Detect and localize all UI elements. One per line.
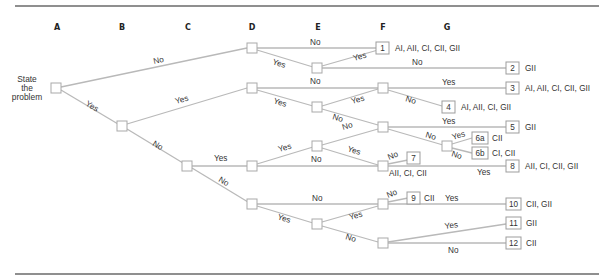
node-d2 <box>247 83 257 93</box>
svg-text:CII: CII <box>526 239 536 248</box>
svg-text:No: No <box>311 155 322 164</box>
leaf-10: 10 CII, GII <box>506 198 552 210</box>
svg-text:No: No <box>312 194 323 203</box>
svg-text:No: No <box>310 77 321 86</box>
leaf-12: 12 CII <box>506 237 536 249</box>
svg-text:No: No <box>344 232 357 244</box>
node-e4 <box>312 219 322 229</box>
column-header-c: C <box>185 23 191 32</box>
leaf-8: 8 AII, CI, CII, GII <box>506 160 578 172</box>
svg-text:No: No <box>310 38 321 47</box>
svg-text:CII: CII <box>492 134 502 143</box>
svg-text:Yes: Yes <box>442 78 455 87</box>
svg-text:Yes: Yes <box>442 117 455 126</box>
edge-labels: No Yes Yes No No Yes Yes No No Yes Yes N… <box>84 38 490 255</box>
svg-text:Yes: Yes <box>445 194 458 203</box>
node-f3 <box>378 122 388 132</box>
svg-text:1: 1 <box>380 44 385 53</box>
svg-text:GII: GII <box>525 64 536 73</box>
node-d3 <box>247 161 257 171</box>
node-g <box>442 141 452 151</box>
svg-text:Yes: Yes <box>276 212 291 225</box>
svg-text:6b: 6b <box>475 149 485 158</box>
svg-text:11: 11 <box>509 219 518 228</box>
node-e3 <box>312 141 322 151</box>
svg-text:9: 9 <box>411 194 416 203</box>
node-c <box>182 161 192 171</box>
decision-nodes <box>51 43 452 248</box>
node-e2 <box>312 102 322 112</box>
leaf-1: 1 AI, AII, CI, CII, GII <box>376 42 460 54</box>
column-header-a: A <box>54 23 61 32</box>
node-a <box>51 83 61 93</box>
svg-text:Yes: Yes <box>271 57 286 70</box>
svg-text:Yes: Yes <box>214 154 227 163</box>
svg-text:3: 3 <box>510 84 515 93</box>
leaf-4: 4 AI, AII, CI, GII <box>442 101 511 113</box>
leaves: 1 AI, AII, CI, CII, GII 2 GII 3 AI, AII,… <box>376 42 590 249</box>
svg-text:CII, GII: CII, GII <box>526 200 552 209</box>
column-header-e: E <box>315 23 320 32</box>
node-d1 <box>247 43 257 53</box>
svg-text:4: 4 <box>446 103 451 112</box>
node-f4 <box>378 161 388 171</box>
svg-text:AI, AII, CI, CII, GII: AI, AII, CI, CII, GII <box>525 84 590 93</box>
svg-text:CI, CII: CI, CII <box>492 149 515 158</box>
leaf-2: 2 GII <box>506 62 536 74</box>
leaf-6a: 6a CII <box>472 132 502 144</box>
svg-text:Yes: Yes <box>346 144 361 157</box>
svg-text:No: No <box>386 149 399 161</box>
leaf-3: 3 AI, AII, CI, CII, GII <box>506 82 590 94</box>
node-f2 <box>378 83 388 93</box>
svg-text:AI, AII, CI, CII, GII: AI, AII, CI, CII, GII <box>395 44 460 53</box>
svg-text:AI, AII, CI, GII: AI, AII, CI, GII <box>461 103 511 112</box>
svg-text:10: 10 <box>509 200 519 209</box>
svg-text:CII: CII <box>424 194 434 203</box>
node-f6 <box>378 238 388 248</box>
column-header-g: G <box>444 23 451 32</box>
leaf-11: 11 GII <box>506 217 537 229</box>
svg-text:2: 2 <box>510 64 515 73</box>
svg-text:No: No <box>404 94 417 106</box>
svg-text:Yes: Yes <box>352 51 367 63</box>
svg-text:No: No <box>448 246 459 255</box>
svg-text:AII, CI, CII: AII, CI, CII <box>389 169 427 178</box>
svg-text:5: 5 <box>510 123 515 132</box>
column-header-f: F <box>380 23 385 32</box>
svg-text:Yes: Yes <box>477 168 490 177</box>
decision-tree-diagram: A B C D E F G State the problem <box>0 0 612 277</box>
svg-text:No: No <box>341 120 354 132</box>
svg-text:No: No <box>450 149 463 161</box>
node-b <box>117 121 127 131</box>
node-f5 <box>378 199 388 209</box>
svg-text:Yes: Yes <box>444 220 458 231</box>
node-d4 <box>247 199 257 209</box>
svg-text:No: No <box>217 175 231 188</box>
svg-text:6a: 6a <box>475 134 485 143</box>
svg-text:AII, CI, CII, GII: AII, CI, CII, GII <box>525 162 578 171</box>
svg-text:No: No <box>412 58 423 67</box>
start-label-line3: problem <box>12 92 42 102</box>
column-header-b: B <box>119 23 125 32</box>
leaf-6b: 6b CI, CII <box>472 147 515 159</box>
svg-text:7: 7 <box>411 154 416 163</box>
node-e1 <box>312 63 322 73</box>
svg-text:GII: GII <box>526 219 537 228</box>
leaf-5: 5 GII <box>506 121 536 133</box>
svg-text:Yes: Yes <box>348 210 363 222</box>
svg-text:12: 12 <box>509 239 519 248</box>
column-header-d: D <box>249 23 256 32</box>
svg-text:GII: GII <box>525 123 536 132</box>
leaf-9: 9 CII <box>407 192 434 204</box>
svg-text:8: 8 <box>510 162 515 171</box>
svg-text:No: No <box>153 55 166 66</box>
svg-text:Yes: Yes <box>174 94 189 106</box>
svg-text:Yes: Yes <box>277 142 292 154</box>
svg-text:Yes: Yes <box>350 94 365 106</box>
svg-text:No: No <box>385 187 398 199</box>
